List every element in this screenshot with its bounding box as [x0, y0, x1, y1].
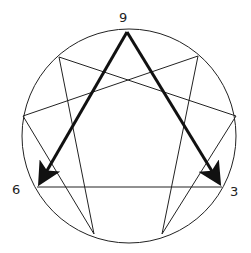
outer-circle — [22, 29, 236, 243]
enneagram-diagram: 9 6 3 — [0, 0, 251, 253]
arrow-9-to-3 — [127, 32, 218, 181]
label-3: 3 — [230, 184, 238, 199]
arrow-9-to-6 — [41, 32, 127, 181]
hexad-lines — [23, 56, 236, 234]
label-6: 6 — [12, 182, 20, 197]
label-9: 9 — [119, 10, 127, 25]
